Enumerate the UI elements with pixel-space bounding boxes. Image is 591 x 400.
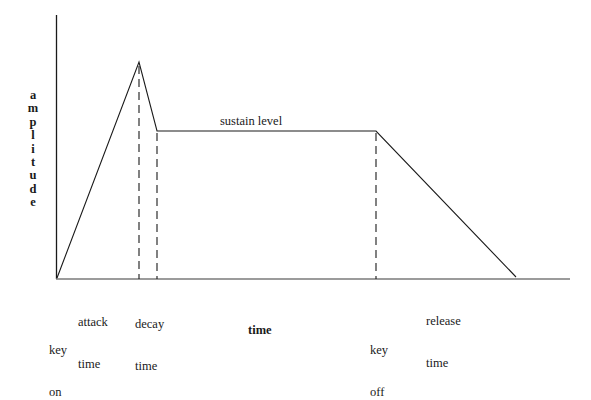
y-letter: e [26, 196, 40, 209]
y-letter: i [26, 143, 40, 156]
x-axis-label: time [248, 323, 272, 337]
release-time-line1: release [426, 314, 461, 328]
decay-time-label: decay time [135, 289, 164, 387]
envelope-curve [57, 62, 516, 278]
y-letter: t [26, 156, 40, 169]
attack-time-label: attack time [78, 287, 108, 385]
y-letter: m [26, 102, 40, 115]
y-letter: p [26, 116, 40, 129]
y-axis-label: a m p l i t u d e [26, 89, 40, 210]
decay-time-line2: time [135, 359, 164, 373]
key-on-label: key on [49, 315, 67, 400]
y-letter: d [26, 183, 40, 196]
y-letter: a [26, 89, 40, 102]
key-off-line2: off [370, 385, 388, 399]
sustain-level-label: sustain level [220, 114, 282, 128]
key-off-line1: key [370, 343, 388, 357]
y-letter: l [26, 129, 40, 142]
key-on-line1: key [49, 343, 67, 357]
key-on-line2: on [49, 385, 67, 399]
y-letter: u [26, 169, 40, 182]
attack-time-line1: attack [78, 315, 108, 329]
release-time-line2: time [426, 356, 461, 370]
attack-time-line2: time [78, 357, 108, 371]
decay-time-line1: decay [135, 317, 164, 331]
key-off-label: key off [370, 315, 388, 400]
release-time-label: release time [426, 286, 461, 384]
